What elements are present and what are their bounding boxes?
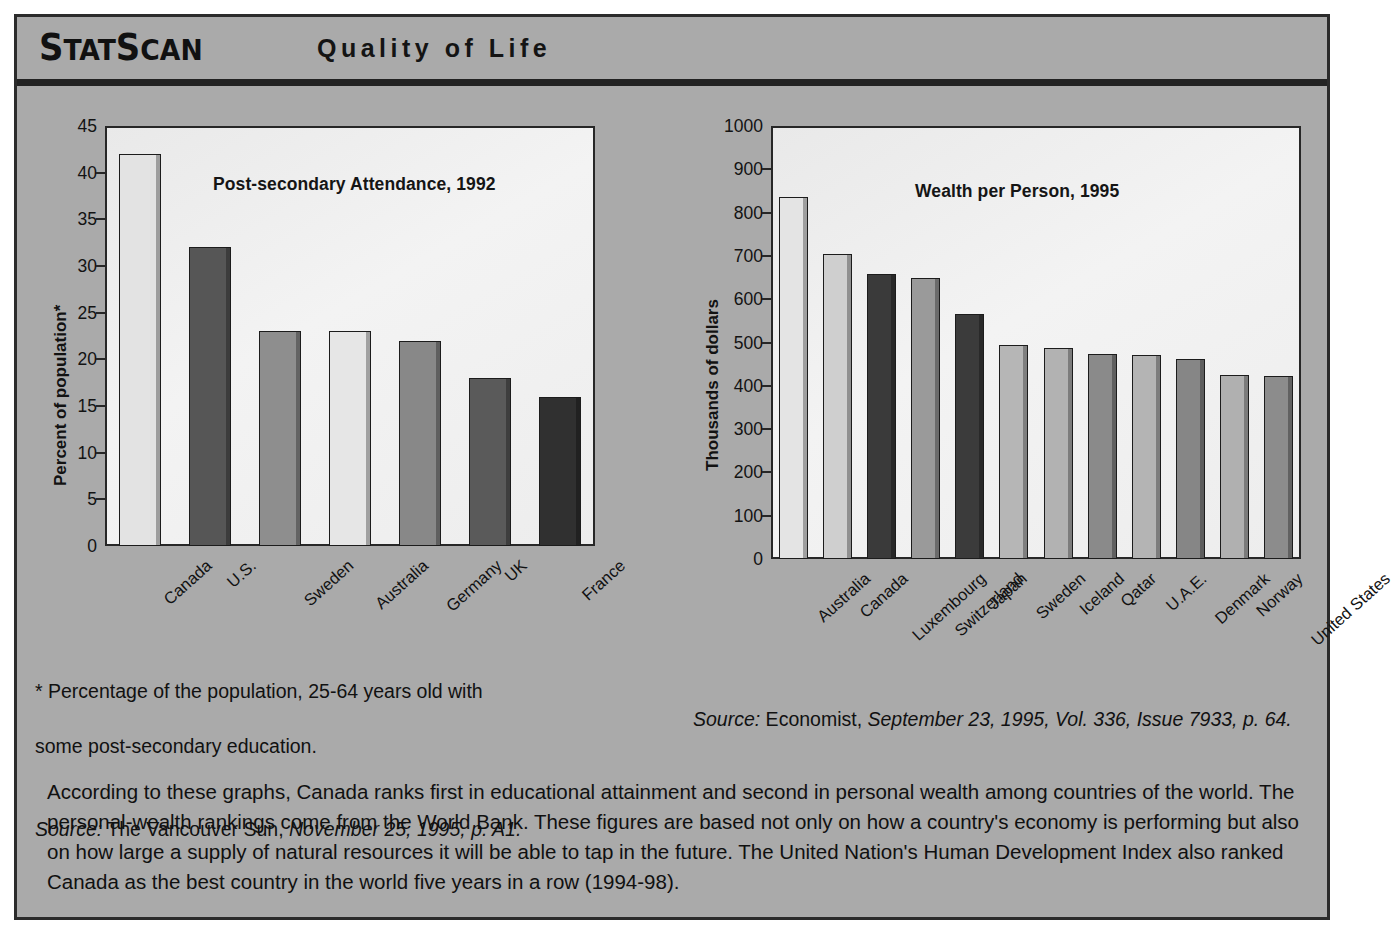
chart1-xtick-label: United States	[1308, 569, 1394, 649]
chart1-ytick-mark	[762, 385, 771, 387]
table-row	[189, 247, 231, 546]
chart0-ytick-label: 15	[43, 396, 97, 417]
right-source-plain: Economist,	[760, 708, 862, 730]
right-source-italic: September 23, 1995, Vol. 336, Issue 7933…	[862, 708, 1292, 730]
chart0-ytick-label: 5	[43, 489, 97, 510]
table-row	[823, 254, 852, 559]
left-footnote-line1: * Percentage of the population, 25-64 ye…	[35, 678, 655, 706]
table-row	[329, 331, 371, 546]
chart0-ytick-mark	[96, 452, 105, 454]
chart0-ytick-label: 30	[43, 256, 97, 277]
chart1-xtick-label: U.A.E.	[1162, 569, 1210, 615]
table-row	[539, 397, 581, 546]
chart0-xtick-label: Sweden	[300, 556, 357, 610]
chart0-ytick-label: 10	[43, 442, 97, 463]
table-row	[469, 378, 511, 546]
chart1-ytick-mark	[762, 255, 771, 257]
chart0-ytick-mark	[96, 498, 105, 500]
statscan-logo-text: STATSCAN	[39, 26, 203, 69]
table-row	[867, 274, 896, 559]
chart1-ytick-mark	[762, 428, 771, 430]
chart1-ytick-label: 500	[709, 332, 763, 353]
right-source-label: Source:	[693, 708, 760, 730]
chart0-xtick-label: Canada	[160, 556, 216, 609]
chart1-ytick-label: 100	[709, 505, 763, 526]
chart1-ytick-label: 1000	[709, 116, 763, 137]
chart1-ytick-label: 0	[709, 549, 763, 570]
chart0-ytick-label: 35	[43, 209, 97, 230]
chart1-ytick-label: 200	[709, 462, 763, 483]
chart1-ytick-label: 800	[709, 202, 763, 223]
chart0-xtick-label: U.S.	[223, 556, 260, 592]
statscan-logo: STATSCAN	[39, 26, 203, 69]
table-row	[259, 331, 301, 546]
table-row	[911, 278, 940, 559]
chart0-title: Post-secondary Attendance, 1992	[213, 174, 496, 195]
chart0-ytick-label: 25	[43, 302, 97, 323]
chart0-ytick-label: 0	[43, 536, 97, 557]
header-band: STATSCAN Quality of Life	[17, 17, 1327, 79]
chart1-title: Wealth per Person, 1995	[915, 181, 1119, 202]
chart0-ytick-label: 20	[43, 349, 97, 370]
table-row	[1088, 354, 1117, 559]
table-row	[955, 314, 984, 559]
left-footnote-line2: some post-secondary education.	[35, 733, 655, 761]
chart1-xtick-label: Qatar	[1116, 569, 1159, 611]
chart1-ytick-label: 700	[709, 245, 763, 266]
chart0-ytick-label: 45	[43, 116, 97, 137]
page-title: Quality of Life	[317, 34, 551, 63]
chart1-ytick-mark	[762, 168, 771, 170]
table-row	[779, 197, 808, 559]
table-row	[399, 341, 441, 546]
chart0-xtick-label: France	[578, 556, 629, 604]
chart-wealth-per-person: Thousands of dollars 0100200300400500600…	[675, 86, 1333, 661]
chart1-ytick-label: 400	[709, 375, 763, 396]
chart1-ytick-mark	[762, 342, 771, 344]
table-row	[1176, 359, 1205, 559]
chart1-ytick-mark	[762, 515, 771, 517]
body-paragraph: According to these graphs, Canada ranks …	[47, 777, 1309, 898]
chart1-ytick-label: 900	[709, 159, 763, 180]
table-row	[1264, 376, 1293, 559]
chart0-xtick-label: Australia	[372, 556, 432, 613]
table-row	[119, 154, 161, 546]
chart0-ytick-label: 40	[43, 162, 97, 183]
table-row	[1044, 348, 1073, 559]
header-divider	[17, 79, 1327, 86]
chart1-ytick-mark	[762, 298, 771, 300]
chart0-ytick-mark	[96, 218, 105, 220]
chart0-xtick-label: UK	[501, 556, 531, 585]
chart-post-secondary-attendance: Percent of population* 05101520253035404…	[17, 86, 675, 646]
chart1-ytick-label: 300	[709, 419, 763, 440]
chart1-ytick-label: 600	[709, 289, 763, 310]
chart1-ytick-mark	[762, 471, 771, 473]
table-row	[999, 345, 1028, 559]
chart0-ytick-mark	[96, 172, 105, 174]
table-row	[1220, 375, 1249, 559]
chart1-xtick-label: Sweden	[1033, 569, 1090, 623]
right-source: Source: Economist, September 23, 1995, V…	[693, 678, 1309, 733]
chart0-ytick-mark	[96, 265, 105, 267]
chart1-ytick-mark	[762, 212, 771, 214]
chart0-xtick-label: Germany	[442, 556, 505, 616]
chart0-ytick-mark	[96, 358, 105, 360]
statscan-panel: STATSCAN Quality of Life Percent of popu…	[14, 14, 1330, 920]
chart0-ytick-mark	[96, 405, 105, 407]
chart0-ytick-mark	[96, 312, 105, 314]
table-row	[1132, 355, 1161, 559]
